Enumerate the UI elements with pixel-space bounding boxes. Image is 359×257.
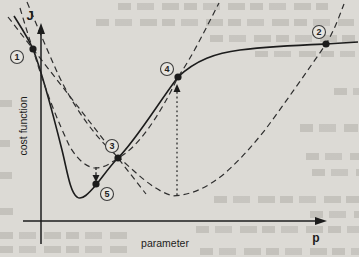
scanned-page-background: 12345Jpparametercost function [0, 0, 359, 257]
wide-quadratic-approximation [27, 2, 344, 196]
data-point-4 [174, 73, 181, 80]
cost-function-curve [14, 16, 358, 198]
marker-number-3: 3 [109, 141, 114, 151]
data-point-5 [92, 180, 99, 187]
y-axis-arrowhead [37, 23, 45, 34]
y-axis-symbol: J [26, 8, 33, 23]
narrow-quadratic-approximation [20, 3, 219, 168]
data-point-3 [114, 154, 121, 161]
cost-function-figure: 12345Jpparametercost function [0, 0, 359, 257]
x-axis-arrowhead [315, 217, 327, 225]
x-axis-symbol: p [312, 231, 319, 245]
x-axis-caption: parameter [141, 237, 189, 249]
data-point-1 [29, 45, 36, 52]
y-axis-caption: cost function [17, 96, 29, 155]
data-point-2 [322, 40, 329, 47]
marker-number-4: 4 [164, 64, 169, 74]
marker-number-1: 1 [14, 52, 19, 62]
marker-number-2: 2 [316, 27, 321, 37]
marker-number-5: 5 [104, 189, 109, 199]
